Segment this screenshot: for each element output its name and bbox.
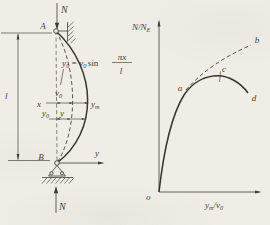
point-c-label: c [222, 64, 226, 74]
node-b-label: B [38, 152, 44, 162]
load-deflection-graph: N/NE ym/v0 o a b c d [131, 20, 262, 212]
dim-arrow-icon [67, 118, 70, 120]
bottom-force-label: N [58, 201, 67, 212]
actual-curve [159, 76, 248, 192]
point-a-label: a [178, 83, 183, 93]
origin-label: o [146, 192, 151, 202]
support-roller-icon [50, 172, 53, 175]
dim-arrow-icon [82, 118, 85, 120]
top-force-label: N [60, 4, 69, 15]
v0-label: v0 [55, 88, 63, 99]
column-figure: N l A y0=v0sin πx l [1, 3, 132, 213]
dim-arrowhead-top-icon [17, 34, 20, 40]
top-support-hatching [68, 22, 76, 43]
length-label: l [5, 91, 8, 101]
equation-text: y0=v0sin [61, 58, 99, 69]
figure-canvas: N l A y0=v0sin πx l [0, 0, 270, 225]
y0-label: y0 [41, 108, 50, 119]
point-d-label: d [252, 93, 257, 103]
upper-measurement-line: x v0 ym [36, 88, 100, 110]
graph-y-axis-label: N/NE [131, 22, 151, 33]
graph-x-axis-arrowhead-icon [255, 191, 262, 194]
initial-shape-equation: y0=v0sin πx l [61, 52, 133, 85]
graph-x-axis-label: ym/v0 [204, 200, 224, 211]
pin-b-icon [55, 161, 60, 166]
y-axis-arrowhead-icon [98, 162, 105, 165]
equation-fraction-numerator: πx [118, 52, 127, 62]
equation-leader-line [61, 69, 64, 85]
ground-hatching [42, 178, 74, 184]
graph-y-axis-arrowhead-icon [158, 20, 161, 27]
peak-tick [220, 72, 221, 83]
pin-a-icon [54, 29, 59, 34]
lower-measurement-line: y0 y [41, 108, 86, 120]
dim-arrow-icon [69, 102, 72, 104]
point-b-label: b [255, 35, 260, 45]
bottom-force-arrowhead-icon [54, 186, 58, 193]
y-axis-label: y [94, 148, 99, 158]
node-a-label: A [39, 21, 46, 31]
support-roller-icon [60, 172, 63, 175]
y-deflection-label: y [59, 108, 64, 118]
equation-fraction-denominator: l [120, 66, 123, 76]
textbook-figure: N l A y0=v0sin πx l [0, 0, 270, 225]
coordinate-x-label: x [36, 99, 41, 109]
dim-arrowhead-bottom-icon [17, 154, 20, 160]
ym-label: ym [90, 99, 100, 110]
